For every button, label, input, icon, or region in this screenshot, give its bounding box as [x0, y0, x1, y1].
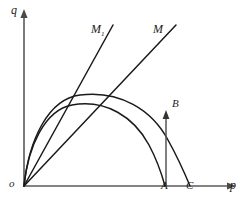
point-a-label: A	[161, 180, 168, 191]
m1-line-label-subscript: 1	[101, 30, 105, 38]
m-line-label: M	[153, 23, 163, 35]
m1-line-label: M1	[91, 23, 105, 38]
q-axis-arrowhead	[20, 9, 27, 18]
p-axis-label: p	[230, 179, 236, 191]
q-axis-label: q	[11, 4, 17, 16]
a-to-b-arrowhead	[163, 110, 170, 119]
inner-yield-surface-curve	[24, 104, 165, 186]
m1-line-label-base: M	[91, 22, 101, 36]
origin-label: o	[9, 178, 15, 189]
point-c-label: C	[186, 180, 193, 191]
stress-path-figure: q p o M1 M A B C	[0, 0, 247, 205]
point-b-label: B	[172, 98, 179, 109]
figure-canvas	[0, 0, 247, 205]
